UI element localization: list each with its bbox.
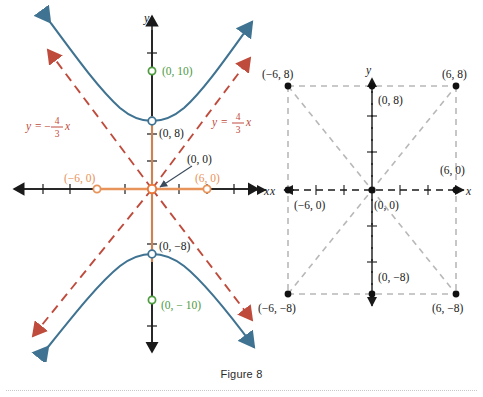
svg-text:4: 4 bbox=[236, 112, 241, 122]
midpoint-right-marker bbox=[453, 187, 460, 194]
center-marker bbox=[148, 185, 156, 193]
vertex-upper-label: (0, 8) bbox=[159, 127, 184, 140]
origin-label: (0, 0) bbox=[374, 199, 399, 212]
svg-text:y: y bbox=[211, 116, 218, 129]
midpoint-top-marker bbox=[369, 83, 376, 90]
svg-text:=: = bbox=[221, 116, 228, 128]
corner-bottom-left-marker bbox=[285, 291, 292, 298]
corner-top-left-marker bbox=[285, 83, 292, 90]
figure-container: y x (0, 10) (0, 8) (−6, 0) (0, 0) (6, 0)… bbox=[0, 0, 483, 397]
vertex-upper-marker bbox=[148, 117, 156, 125]
asymptote-label-positive: y = 4 3 x bbox=[211, 112, 252, 135]
co-vertex-left-marker bbox=[93, 185, 100, 192]
svg-text:= −: = − bbox=[35, 120, 51, 132]
corner-bottom-right-label: (6, −8) bbox=[432, 302, 464, 315]
x-axis-label-left: x bbox=[269, 185, 276, 197]
vertex-lower-marker bbox=[148, 250, 156, 258]
focus-upper-label: (0, 10) bbox=[162, 65, 193, 78]
y-axis-label: y bbox=[143, 11, 150, 25]
asymptote-positive-lower bbox=[33, 189, 152, 336]
y-axis-label: y bbox=[365, 64, 372, 77]
corner-bottom-left-label: (−6, −8) bbox=[258, 302, 296, 315]
bottom-divider bbox=[6, 390, 477, 391]
central-rectangle-plot: y x x (−6, 8) (0, 8) (6, 8) (−6, 0) (0, … bbox=[248, 34, 480, 324]
center-callout-arrow bbox=[160, 166, 192, 187]
hyperbola-plot: y x (0, 10) (0, 8) (−6, 0) (0, 0) (6, 0)… bbox=[0, 0, 270, 362]
midpoint-right-label: (6, 0) bbox=[440, 164, 465, 177]
center-label: (0, 0) bbox=[187, 153, 212, 166]
right-axes bbox=[248, 78, 464, 306]
midpoint-left-marker bbox=[285, 187, 292, 194]
co-vertex-left-label: (−6, 0) bbox=[64, 172, 96, 185]
midpoint-left-label: (−6, 0) bbox=[294, 199, 326, 212]
midpoint-bottom-marker bbox=[369, 291, 376, 298]
corner-top-left-label: (−6, 8) bbox=[262, 68, 294, 81]
left-axes bbox=[14, 16, 262, 352]
svg-text:x: x bbox=[64, 120, 71, 132]
corner-top-right-marker bbox=[453, 83, 460, 90]
svg-text:y: y bbox=[25, 120, 32, 133]
midpoint-bottom-label: (0, −8) bbox=[378, 271, 410, 284]
svg-text:4: 4 bbox=[55, 116, 60, 126]
co-vertex-right-label: (6, 0) bbox=[195, 172, 220, 185]
svg-text:3: 3 bbox=[236, 125, 241, 135]
figure-caption: Figure 8 bbox=[0, 368, 483, 380]
midpoint-top-label: (0, 8) bbox=[378, 94, 403, 107]
corner-top-right-label: (6, 8) bbox=[442, 68, 467, 81]
asymptote-label-negative: y = − 4 3 x bbox=[25, 116, 71, 139]
x-axis-label-right: x bbox=[465, 185, 472, 197]
co-vertex-right-marker bbox=[203, 185, 210, 192]
focus-upper-marker bbox=[148, 67, 155, 74]
asymptote-negative-upper bbox=[48, 50, 152, 189]
corner-bottom-right-marker bbox=[453, 291, 460, 298]
svg-text:3: 3 bbox=[55, 129, 60, 139]
focus-lower-label: (0, − 10) bbox=[161, 299, 201, 312]
origin-marker bbox=[368, 186, 375, 193]
focus-lower-marker bbox=[148, 296, 155, 303]
vertex-lower-label: (0, −8) bbox=[159, 240, 191, 253]
